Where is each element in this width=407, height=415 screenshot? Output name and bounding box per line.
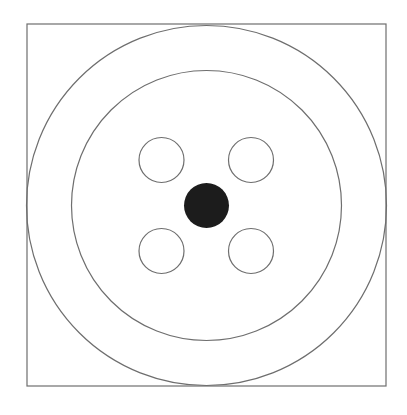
small-circle-top-right: [229, 138, 274, 183]
small-circle-bottom-right: [229, 229, 274, 274]
small-circle-bottom-left: [139, 229, 184, 274]
small-circle-top-left: [139, 138, 184, 183]
center-filled-dot: [184, 183, 229, 228]
diagram-canvas: [0, 0, 407, 415]
